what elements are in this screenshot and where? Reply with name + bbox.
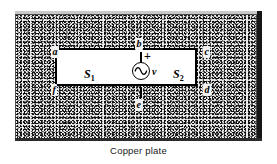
node-label-e: e xyxy=(135,99,142,111)
surface-s2-subscript: 2 xyxy=(180,74,184,83)
node-label-f: f xyxy=(51,84,57,96)
node-label-a: a xyxy=(51,46,59,58)
figure-copper-plate-ac-source: S1 S2 + v a b c d e f Copper plate xyxy=(0,0,277,164)
surface-label-s1: S1 xyxy=(84,67,95,83)
polarity-plus-sign: + xyxy=(144,50,151,62)
sine-wave-icon xyxy=(133,63,149,79)
surface-s2-letter: S xyxy=(173,67,180,81)
surface-s1-letter: S xyxy=(84,67,91,81)
plate-right-edge-shadow xyxy=(257,11,262,141)
ac-voltage-source: + v xyxy=(129,52,155,98)
node-label-b: b xyxy=(135,38,143,50)
plate-bottom-edge-shadow xyxy=(15,138,262,141)
source-bottom-wire xyxy=(140,87,142,98)
node-label-d: d xyxy=(203,84,211,96)
surface-s1-subscript: 1 xyxy=(91,74,95,83)
node-label-c: c xyxy=(203,46,210,58)
voltage-label-v: v xyxy=(152,66,156,77)
surface-label-s2: S2 xyxy=(173,67,184,83)
figure-caption: Copper plate xyxy=(0,145,277,156)
